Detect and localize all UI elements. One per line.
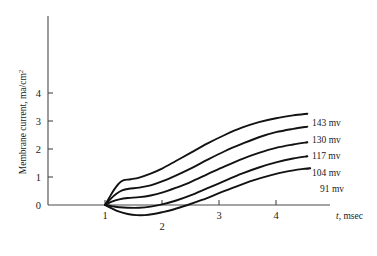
series-labels-group: 143 mv130 mv117 mv104 mv91 mv (312, 118, 344, 194)
x-axis-title-units: , msec (339, 211, 363, 221)
y-tick-label-0: 0 (36, 200, 41, 211)
y-axis-title-group: Membrane current, ma/cm2 (17, 69, 28, 174)
series-label-143-mv: 143 mv (312, 118, 341, 128)
y-axis-title-text: Membrane current, ma/cm (18, 73, 28, 175)
y-axis-ticks: 01234 (36, 88, 53, 211)
series-leader-lines (306, 114, 310, 169)
x-tick-label-2: 2 (159, 221, 164, 232)
y-axis-title-superscript: 2 (17, 69, 24, 73)
series-label-91-mv: 91 mv (320, 184, 344, 194)
y-tick-label-2: 2 (36, 144, 41, 155)
x-tick-label-4: 4 (273, 210, 279, 221)
x-axis-title-group: t, msec (336, 211, 363, 221)
curve-130-mv (105, 127, 307, 205)
y-axis-title: Membrane current, ma/cm2 (17, 69, 28, 174)
y-tick-label-1: 1 (36, 172, 41, 183)
x-tick-label-1: 1 (102, 210, 107, 221)
x-tick-label-3: 3 (216, 210, 221, 221)
series-label-104-mv: 104 mv (312, 168, 341, 178)
membrane-current-chart: 01234 1234 143 mv130 mv117 mv104 mv91 mv… (0, 0, 377, 256)
curve-104-mv (105, 156, 307, 208)
chart-canvas: 01234 1234 143 mv130 mv117 mv104 mv91 mv… (0, 0, 377, 256)
axes-group (48, 16, 330, 205)
x-axis-title: t, msec (336, 211, 363, 221)
curves-group (105, 114, 310, 216)
series-label-130-mv: 130 mv (312, 135, 341, 145)
y-tick-label-4: 4 (36, 88, 42, 99)
series-label-117-mv: 117 mv (312, 151, 341, 161)
y-tick-label-3: 3 (36, 116, 41, 127)
